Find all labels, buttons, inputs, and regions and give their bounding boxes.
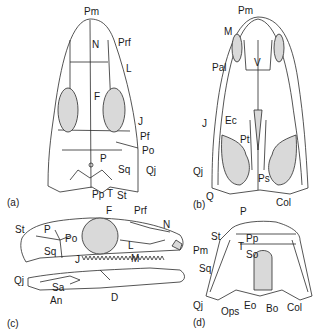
- panel-tag-b: (b): [193, 200, 205, 210]
- label-a-f: F: [94, 92, 100, 102]
- panel-tag-d: (d): [193, 318, 205, 328]
- label-a-j: J: [138, 117, 143, 127]
- label-d-ops: Ops: [221, 307, 239, 317]
- label-a-sq: Sq: [118, 165, 130, 175]
- label-c-l: L: [128, 241, 134, 251]
- label-c-st: St: [15, 225, 24, 235]
- label-a-n: N: [92, 40, 99, 50]
- panel-tag-c: (c): [7, 319, 19, 329]
- label-d-t: T: [238, 242, 244, 252]
- label-c-p: P: [44, 225, 51, 235]
- label-d-so: So: [246, 250, 258, 260]
- label-c-j: J: [75, 255, 80, 265]
- label-b-col: Col: [276, 198, 291, 208]
- label-c-sa: Sa: [52, 283, 64, 293]
- label-a-st: St: [117, 191, 126, 201]
- label-a-po: Po: [142, 146, 154, 156]
- label-d-qj: Qj: [193, 301, 203, 311]
- label-c-qj: Qj: [14, 276, 24, 286]
- label-b-j: J: [202, 119, 207, 129]
- label-d-col: Col: [287, 303, 302, 313]
- label-b-pal: Pal: [212, 63, 226, 73]
- label-a-p: P: [100, 154, 107, 164]
- label-a-pf: Pf: [140, 132, 149, 142]
- label-b-pt: Pt: [240, 135, 249, 145]
- label-b-ec: Ec: [225, 116, 237, 126]
- label-c-d: D: [111, 293, 118, 303]
- interpterygoid-vacuity: [254, 110, 262, 150]
- label-b-v: V: [254, 58, 261, 68]
- label-d-st: St: [211, 232, 220, 242]
- label-d-bo: Bo: [266, 304, 278, 314]
- panel-tag-a: (a): [7, 198, 19, 208]
- label-a-prf: Prf: [118, 38, 131, 48]
- left-orbit: [58, 88, 78, 132]
- maxillary-teeth: [82, 256, 164, 260]
- lateral-orbit: [82, 218, 118, 254]
- label-c-n: N: [163, 220, 170, 230]
- label-a-pm: Pm: [84, 7, 99, 17]
- label-d-sq: Sq: [199, 264, 211, 274]
- label-c-pm: Pm: [193, 246, 208, 256]
- label-b-qj: Qj: [193, 167, 203, 177]
- label-b-pm: Pm: [238, 6, 253, 16]
- label-d-pp: Pp: [246, 234, 258, 244]
- label-b-ps: Ps: [258, 174, 270, 184]
- label-d-p: P: [240, 207, 247, 217]
- label-c-prf: Prf: [134, 206, 147, 216]
- label-a-qj: Qj: [146, 166, 156, 176]
- label-a-pp: Pp: [92, 190, 104, 200]
- label-c-po: Po: [65, 234, 77, 244]
- label-a-t: T: [107, 189, 113, 199]
- label-a-l: L: [126, 64, 132, 74]
- palatal-right-vacuity: [269, 135, 297, 185]
- label-c-sq: Sq: [44, 247, 56, 257]
- label-d-eo: Eo: [244, 301, 256, 311]
- label-b-m: M: [224, 27, 232, 37]
- label-b-q: Q: [206, 192, 214, 202]
- label-c-m: M: [131, 254, 139, 264]
- label-c-an: An: [50, 296, 62, 306]
- label-c-f: F: [106, 206, 112, 216]
- right-orbit: [103, 88, 125, 132]
- skull-diagram: [0, 0, 323, 334]
